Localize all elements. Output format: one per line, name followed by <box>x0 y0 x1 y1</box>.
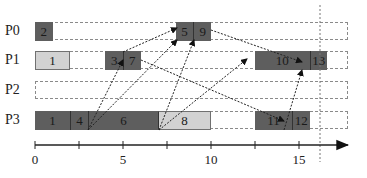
dependency-arrow-3 <box>141 60 284 121</box>
dependency-arrow-5 <box>159 59 247 130</box>
dependency-arrow-7 <box>284 70 302 130</box>
dependency-arrow-0 <box>88 60 123 130</box>
axis-tick-label: 15 <box>293 152 306 168</box>
diagram-overlay <box>0 0 367 178</box>
dependency-arrow-2 <box>123 28 177 52</box>
gantt-schedule-diagram: P0P1P2P3259137101314681112051015 <box>0 0 367 178</box>
axis-tick-label: 10 <box>205 152 218 168</box>
axis-tick-label: 5 <box>120 152 127 168</box>
dependency-arrow-6 <box>211 30 302 62</box>
axis-tick-label: 0 <box>32 152 39 168</box>
dependency-arrow-1 <box>88 40 177 130</box>
